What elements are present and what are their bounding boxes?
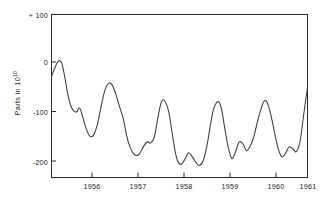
y-axis-ticks [52, 15, 57, 162]
data-series-line [52, 61, 308, 166]
x-axis-ticks [92, 173, 276, 178]
chart-figure: Parts in 1010 + 100 0 -100 -200 1956 195… [0, 0, 325, 207]
plot-frame [52, 15, 308, 178]
plot-area [0, 0, 325, 207]
